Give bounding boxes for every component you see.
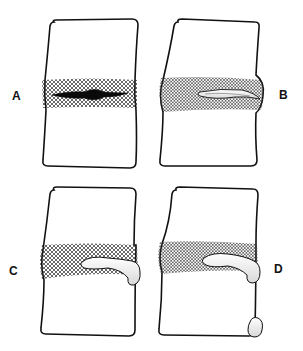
panel-label-a: A	[12, 90, 21, 102]
panel-c	[40, 187, 140, 336]
panel-a	[42, 19, 138, 168]
panel-d	[158, 187, 262, 337]
panel-label-c: C	[9, 265, 18, 277]
disc-stages-diagram	[0, 0, 303, 351]
panel-label-d: D	[274, 263, 283, 275]
panel-b	[159, 19, 263, 166]
panel-label-b: B	[279, 89, 288, 101]
sequestered-fragment-d	[248, 318, 263, 338]
